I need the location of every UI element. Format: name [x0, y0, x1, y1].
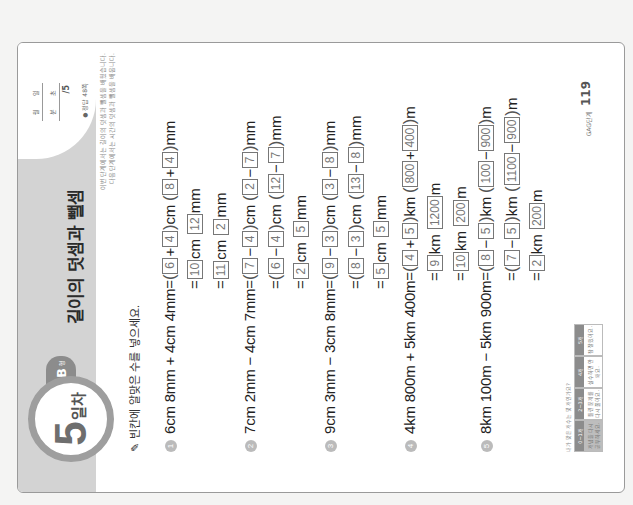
- unit-label: m: [426, 183, 443, 196]
- operator: −: [267, 164, 284, 173]
- open-paren: (: [240, 196, 260, 201]
- answer-box[interactable]: 5: [478, 223, 494, 239]
- answer-box[interactable]: 12: [187, 214, 203, 233]
- open-paren: (: [160, 275, 180, 280]
- open-paren: (: [502, 267, 522, 273]
- answer-box[interactable]: 400: [402, 125, 418, 150]
- answer-box[interactable]: 5: [373, 263, 389, 279]
- operator: −: [321, 169, 338, 178]
- operator: −: [241, 248, 258, 257]
- answer-box[interactable]: 8: [348, 147, 364, 163]
- achievement-stage-4: 5개참 잘했어요.: [574, 324, 603, 356]
- answer-box[interactable]: 7: [504, 250, 520, 266]
- equals-sign: =: [186, 280, 203, 289]
- unit-label: km: [477, 193, 494, 217]
- answer-box[interactable]: 2: [293, 263, 309, 279]
- answer-box[interactable]: 13: [348, 174, 364, 193]
- close-paren: ): [476, 217, 496, 222]
- equals-sign: =: [212, 280, 229, 289]
- answer-box[interactable]: 2: [529, 255, 545, 271]
- unit-label: m: [503, 98, 520, 111]
- answer-box[interactable]: 8: [348, 258, 364, 274]
- answer-box[interactable]: 5: [373, 221, 389, 237]
- open-paren: (: [476, 267, 496, 272]
- second-label: 초: [48, 90, 57, 96]
- operator: −: [477, 240, 494, 249]
- answer-box[interactable]: 3: [348, 231, 364, 247]
- pencil-icon: ✎: [129, 443, 142, 452]
- answer-box[interactable]: 8: [322, 152, 338, 168]
- answer-box[interactable]: 1100: [504, 153, 520, 185]
- instruction: ✎빈칸에 알맞은 수를 넣으세요.: [126, 305, 142, 452]
- operator: +: [401, 152, 418, 161]
- answer-box[interactable]: 5: [293, 221, 309, 237]
- stage-body: 참 잘했어요.: [584, 325, 595, 355]
- problem-2-step-3: =2cm 5mm: [292, 195, 309, 289]
- answer-box[interactable]: 900: [504, 117, 520, 143]
- problem-1-step-3: =11cm 2mm: [212, 193, 229, 289]
- month-label: 월: [31, 109, 40, 115]
- answer-box[interactable]: 3: [322, 179, 338, 195]
- answer-box[interactable]: 100: [478, 161, 494, 186]
- answer-box[interactable]: 200: [453, 200, 469, 226]
- problem-number-badge: 2: [245, 440, 257, 452]
- equals-sign: =: [292, 280, 309, 289]
- answer-box[interactable]: 1200: [427, 196, 443, 229]
- answer-box[interactable]: 7: [242, 258, 258, 274]
- open-paren: (: [240, 275, 260, 280]
- close-paren: ): [502, 110, 522, 116]
- answer-box[interactable]: 7: [268, 147, 284, 163]
- day-label: 일차: [67, 392, 88, 420]
- operator: −: [503, 240, 520, 249]
- problem-number-badge: 3: [325, 440, 337, 452]
- footer-note: 내가 맞은 개수는 몇 개인가요?: [564, 383, 571, 452]
- answer-box[interactable]: 2: [242, 179, 258, 195]
- answer-box[interactable]: 10: [187, 260, 203, 279]
- answer-box[interactable]: 6: [268, 258, 284, 274]
- answer-box[interactable]: 4: [268, 231, 284, 247]
- answer-box[interactable]: 4: [242, 231, 258, 247]
- intro-line-2: 다음 단계에서는 시간의 덧셈과 뺄셈을 배웁니다.: [107, 53, 116, 273]
- answer-box[interactable]: 8: [162, 179, 178, 195]
- answer-box[interactable]: 11: [213, 261, 229, 279]
- problem-expression: 8km 100m − 5km 900m: [477, 281, 494, 434]
- close-paren: ): [346, 224, 366, 230]
- answer-box[interactable]: 5: [402, 223, 418, 239]
- answer-box[interactable]: 4: [402, 250, 418, 266]
- unit-label: km: [401, 193, 418, 217]
- unit-label: cm: [161, 201, 178, 225]
- stage-head: 2~3개: [575, 389, 584, 419]
- stage-head: 4개: [575, 357, 584, 387]
- open-paren: (: [266, 275, 286, 281]
- workbook-page: 5 일차 B 형 길이의 덧셈과 뺄셈 월일 분초 /5 ● 정답 48쪽 이번…: [17, 42, 625, 493]
- operator: −: [347, 248, 364, 257]
- equals-sign: =: [267, 280, 284, 289]
- answer-box[interactable]: 7: [242, 152, 258, 168]
- answer-box[interactable]: 4: [162, 231, 178, 247]
- answer-box[interactable]: 200: [529, 203, 545, 229]
- answer-box[interactable]: 800: [402, 161, 418, 186]
- answer-box[interactable]: 900: [478, 125, 494, 150]
- answer-box[interactable]: 10: [453, 252, 469, 271]
- answer-box[interactable]: 12: [268, 174, 284, 193]
- answer-box[interactable]: 9: [322, 258, 338, 274]
- answer-box[interactable]: 8: [478, 250, 494, 266]
- unit-label: cm: [321, 201, 338, 225]
- answer-box[interactable]: 5: [504, 223, 520, 239]
- answer-box[interactable]: 3: [322, 231, 338, 247]
- answer-box[interactable]: 4: [162, 152, 178, 168]
- unit-label: km: [503, 192, 520, 216]
- close-paren: ): [346, 140, 366, 146]
- answer-box[interactable]: 6: [162, 258, 178, 274]
- operator: −: [267, 248, 284, 257]
- answer-box[interactable]: 9: [427, 255, 443, 271]
- close-paren: ): [240, 145, 260, 150]
- stage-body: 실수하면 안 돼요.: [584, 357, 602, 387]
- unit-label: km: [426, 230, 443, 254]
- intro-text: 이번 단계에서는 길이의 덧셈과 뺄셈을 배웠습니다. 다음 단계에서는 시간의…: [98, 53, 116, 273]
- close-paren: ): [400, 119, 420, 124]
- close-paren: ): [266, 224, 286, 230]
- answer-box[interactable]: 2: [213, 219, 229, 235]
- unit-label: km: [452, 227, 469, 251]
- date-label: 일: [31, 90, 40, 96]
